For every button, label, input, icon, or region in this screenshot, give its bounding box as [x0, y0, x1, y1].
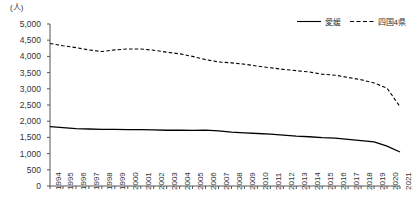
x-tick-label: 2010 [261, 172, 270, 190]
y-tick-label: 2,500 [7, 100, 41, 110]
x-tick-label: 1995 [66, 172, 75, 190]
series-line-ehime [50, 127, 400, 152]
x-tick-label: 2020 [391, 172, 400, 190]
x-tick-label: 1997 [92, 172, 101, 190]
line-chart: (人) 愛媛 四国4県 05001,0001,5002,0002,5003,00… [0, 0, 412, 224]
series-line-shikoku [50, 43, 400, 106]
x-tick-label: 2017 [352, 172, 361, 190]
x-tick-label: 2021 [404, 172, 412, 190]
y-tick-label: 3,500 [7, 68, 41, 78]
y-tick-label: 500 [7, 165, 41, 175]
y-tick-label: 1,500 [7, 132, 41, 142]
y-tick-label: 1,000 [7, 149, 41, 159]
x-tick-label: 2014 [313, 172, 322, 190]
x-tick-label: 2000 [131, 172, 140, 190]
x-tick-label: 1996 [79, 172, 88, 190]
x-tick-label: 2009 [248, 172, 257, 190]
x-tick-label: 2001 [144, 172, 153, 190]
x-tick-label: 2004 [183, 172, 192, 190]
x-tick-label: 2005 [196, 172, 205, 190]
plot-area [0, 0, 412, 224]
x-tick-label: 2002 [157, 172, 166, 190]
y-tick-label: 4,500 [7, 35, 41, 45]
x-tick-label: 1994 [54, 172, 63, 190]
x-tick-label: 1998 [105, 172, 114, 190]
y-tick-label: 4,000 [7, 51, 41, 61]
x-tick-label: 2011 [274, 173, 283, 190]
x-tick-label: 2015 [326, 172, 335, 190]
y-tick-label: 0 [7, 181, 41, 191]
x-tick-label: 2018 [365, 172, 374, 190]
x-tick-label: 2003 [170, 172, 179, 190]
y-tick-label: 2,000 [7, 116, 41, 126]
x-tick-label: 1999 [118, 172, 127, 190]
x-tick-label: 2016 [339, 172, 348, 190]
y-tick-label: 5,000 [7, 19, 41, 29]
y-tick-label: 3,000 [7, 84, 41, 94]
x-tick-label: 2012 [287, 172, 296, 190]
x-tick-label: 2013 [300, 172, 309, 190]
x-tick-label: 2019 [378, 172, 387, 190]
x-tick-label: 2007 [222, 172, 231, 190]
x-tick-label: 2008 [235, 172, 244, 190]
x-tick-label: 2006 [209, 172, 218, 190]
